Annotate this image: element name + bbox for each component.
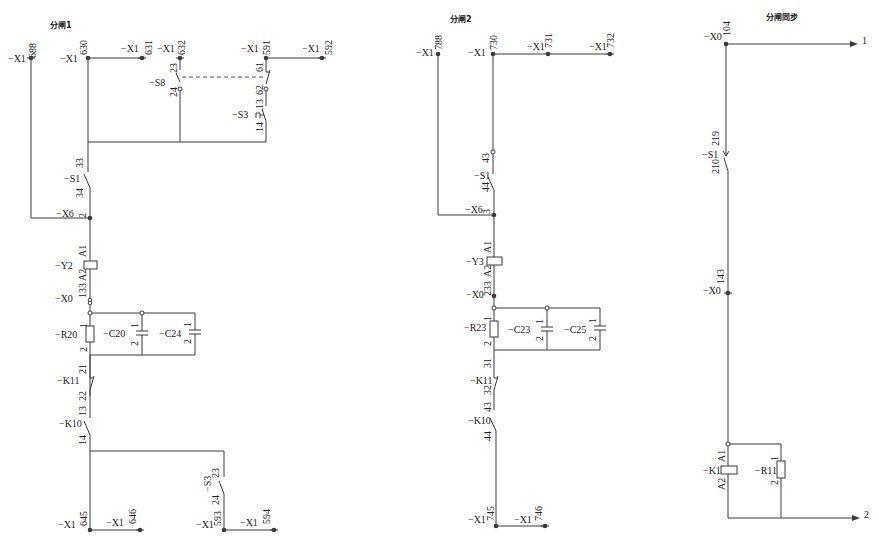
svg-text:−X1: −X1 <box>468 47 486 58</box>
svg-text:−X1: −X1 <box>106 517 124 528</box>
svg-text:−X1: −X1 <box>416 47 434 58</box>
svg-text:688: 688 <box>27 43 38 58</box>
svg-text:−X0: −X0 <box>55 293 73 304</box>
terminal-x1-788: −X1 788 <box>416 35 444 58</box>
svg-text:1: 1 <box>482 316 493 321</box>
switch-s1: 219 −S1 210 <box>702 131 729 174</box>
svg-text:788: 788 <box>433 35 444 50</box>
svg-text:731: 731 <box>543 33 554 48</box>
section-title: 分闸1 <box>50 20 72 30</box>
output-2-label: 2 <box>864 509 869 520</box>
svg-text:730: 730 <box>488 35 499 50</box>
svg-text:2: 2 <box>182 339 193 344</box>
switch-s3-bottom: 23 −S3 24 <box>202 468 224 505</box>
terminal-x0-233: 233 −X0 <box>466 281 496 300</box>
svg-text:−X1: −X1 <box>302 43 320 54</box>
svg-text:A2: A2 <box>482 265 493 277</box>
svg-text:−S1: −S1 <box>474 170 490 181</box>
svg-text:592: 592 <box>323 40 334 55</box>
svg-text:−S1: −S1 <box>64 173 80 184</box>
terminal-x1-731: −X1 731 <box>527 33 554 56</box>
svg-text:−X1: −X1 <box>468 514 486 525</box>
svg-text:−X1: −X1 <box>60 53 78 64</box>
terminal-x1-746: −X1 746 <box>514 506 549 528</box>
svg-text:2: 2 <box>77 213 88 218</box>
svg-text:34: 34 <box>74 188 85 198</box>
svg-text:14: 14 <box>254 122 265 132</box>
svg-text:133: 133 <box>77 283 88 298</box>
svg-text:2: 2 <box>534 336 545 341</box>
terminal-x1-730: −X1 730 <box>468 35 499 58</box>
schematic-canvas: 分闸1 −X1 688 −X1 630 −X1 631 −X1 632 <box>0 0 879 541</box>
svg-text:745: 745 <box>485 506 496 521</box>
svg-text:−K10: −K10 <box>468 415 491 426</box>
svg-text:594: 594 <box>261 509 272 524</box>
switch-s1: 43 −S1 44 <box>474 153 494 192</box>
terminal-x1-645: −X1 645 <box>58 511 92 532</box>
svg-text:746: 746 <box>533 506 544 521</box>
svg-text:3: 3 <box>481 209 492 214</box>
section-title: 分闸2 <box>450 14 472 24</box>
svg-text:A2: A2 <box>77 269 88 281</box>
terminal-x1-732: −X1 732 <box>589 33 616 56</box>
svg-text:A1: A1 <box>716 450 727 462</box>
svg-text:−X1: −X1 <box>241 43 259 54</box>
terminal-x1-630: −X1 630 <box>60 40 90 64</box>
svg-text:13: 13 <box>254 99 265 109</box>
svg-text:1: 1 <box>769 456 780 461</box>
svg-text:−K10: −K10 <box>59 418 82 429</box>
svg-text:1: 1 <box>129 323 140 328</box>
svg-text:13: 13 <box>77 406 88 416</box>
svg-text:A2: A2 <box>716 478 727 490</box>
svg-text:62: 62 <box>254 85 265 95</box>
contact-k11: 21 −K11 22 <box>57 355 94 401</box>
svg-text:−C20: −C20 <box>103 328 125 339</box>
terminal-x1-593: −X1 593 <box>196 511 226 532</box>
svg-text:−X1: −X1 <box>240 517 258 528</box>
svg-text:43: 43 <box>482 402 493 412</box>
svg-text:219: 219 <box>710 131 721 146</box>
switch-s1: 33 −S1 34 <box>64 158 90 198</box>
svg-text:2: 2 <box>482 341 493 346</box>
svg-text:−S3: −S3 <box>232 109 248 120</box>
svg-text:−S1: −S1 <box>702 149 718 160</box>
svg-text:631: 631 <box>143 40 154 55</box>
terminal-x1-646: −X1 646 <box>106 509 144 532</box>
svg-text:61: 61 <box>254 62 265 72</box>
svg-text:593: 593 <box>212 511 223 526</box>
arrow-right-icon <box>852 515 860 521</box>
coil-y2: A1 −Y2 A2 <box>55 245 97 281</box>
terminal-x1-632: −X1 632 <box>157 40 187 60</box>
svg-text:44: 44 <box>480 182 491 192</box>
svg-text:−R23: −R23 <box>464 322 486 333</box>
section-open-sync: 分闸同步 −X0 104 1 219 −S1 210 143 −X0 A1 <box>702 12 869 521</box>
svg-text:24: 24 <box>210 495 221 505</box>
svg-text:14: 14 <box>77 435 88 445</box>
svg-text:−R11: −R11 <box>755 465 777 476</box>
svg-text:−X1: −X1 <box>121 43 139 54</box>
svg-text:−K11: −K11 <box>470 375 493 386</box>
contact-k10: 13 −K10 14 <box>59 406 90 445</box>
svg-text:A1: A1 <box>482 241 493 253</box>
coil-y3: A1 −Y3 A2 <box>466 241 502 277</box>
svg-text:2: 2 <box>78 347 89 352</box>
svg-text:646: 646 <box>127 509 138 524</box>
switch-s8: 23 −S8 24 <box>149 58 264 97</box>
capacitor-c23: −C23 1 2 <box>508 306 553 350</box>
svg-text:632: 632 <box>176 40 187 55</box>
svg-text:630: 630 <box>78 40 89 55</box>
svg-text:−X1: −X1 <box>8 53 26 64</box>
svg-text:−X1: −X1 <box>58 519 76 530</box>
terminal-x1-594: −X1 594 <box>240 509 278 532</box>
svg-text:2: 2 <box>129 341 140 346</box>
svg-text:−X1: −X1 <box>514 514 532 525</box>
svg-text:−X0: −X0 <box>703 285 721 296</box>
svg-text:−C25: −C25 <box>564 324 586 335</box>
arrow-right-icon <box>850 41 858 47</box>
terminal-x1-591: −X1 591 <box>241 40 272 60</box>
svg-text:2: 2 <box>769 480 780 485</box>
svg-text:−K11: −K11 <box>57 375 80 386</box>
svg-text:−X0: −X0 <box>704 31 722 42</box>
coil-k11: A1 −K11 A2 <box>703 450 737 490</box>
svg-text:2: 2 <box>587 336 598 341</box>
